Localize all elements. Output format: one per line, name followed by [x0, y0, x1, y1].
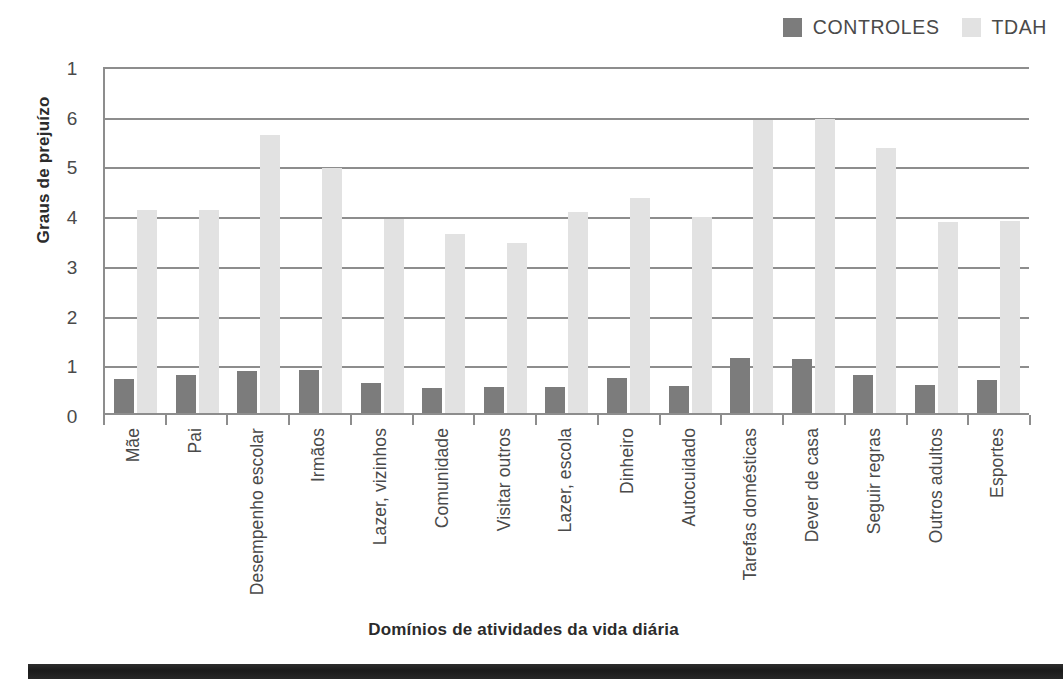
x-axis-category-label: Esportes — [989, 428, 1007, 498]
chart-figure: CONTROLES TDAH Graus de prejuízo 0123456… — [0, 0, 1063, 679]
bar-controles — [607, 378, 627, 413]
y-axis-tick-label: 0 — [67, 407, 78, 426]
bar-controles — [237, 371, 257, 413]
x-axis-tick-mark — [288, 415, 290, 425]
bar-controles — [792, 359, 812, 413]
chart-legend: CONTROLES TDAH — [0, 18, 1047, 38]
bar-controles — [669, 386, 689, 413]
x-axis-tick-marks — [103, 415, 1029, 425]
bar-group — [105, 69, 167, 413]
x-axis-tick-mark — [782, 415, 784, 425]
x-axis-category-label: Lazer, escola — [557, 428, 575, 532]
legend-label-controles: CONTROLES — [813, 18, 940, 38]
bar-controles — [545, 387, 565, 413]
x-axis-tick-mark — [535, 415, 537, 425]
bar-group — [659, 69, 721, 413]
x-axis-category: Pai — [165, 428, 227, 613]
bar-tdah — [753, 120, 773, 413]
x-axis-category-label: Comunidade — [434, 428, 452, 528]
bar-group — [475, 69, 537, 413]
bar-controles — [915, 385, 935, 413]
x-axis-category-label: Dinheiro — [619, 428, 637, 494]
y-axis-tick-label: 2 — [67, 308, 78, 327]
bar-tdah — [692, 217, 712, 413]
bar-group — [598, 69, 660, 413]
x-axis-category: Desempenho escolar — [226, 428, 288, 613]
bar-tdah — [876, 148, 896, 413]
x-axis-category-label: Irmãos — [310, 428, 328, 482]
bar-controles — [114, 379, 134, 413]
legend-label-tdah: TDAH — [992, 18, 1047, 38]
x-axis-category-label: Pai — [187, 428, 205, 454]
y-axis-tick-label: 1 — [67, 59, 78, 78]
x-axis-category: Comunidade — [412, 428, 474, 613]
x-axis-category: Seguir regras — [844, 428, 906, 613]
x-axis-tick-mark — [597, 415, 599, 425]
x-axis-tick-mark — [906, 415, 908, 425]
x-axis-tick-mark — [350, 415, 352, 425]
bar-group — [967, 69, 1029, 413]
y-axis-tick-label: 3 — [67, 258, 78, 277]
x-axis-tick-mark — [967, 415, 969, 425]
legend-item-controles: CONTROLES — [783, 18, 940, 38]
x-axis-tick-mark — [720, 415, 722, 425]
x-axis-tick-mark — [103, 415, 105, 425]
bar-controles — [730, 358, 750, 413]
bar-controles — [422, 388, 442, 413]
bar-tdah — [137, 210, 157, 413]
bar-controles — [299, 370, 319, 413]
bar-group — [413, 69, 475, 413]
bar-groups — [105, 69, 1029, 413]
y-axis-title: Graus de prejuízo — [34, 40, 54, 300]
bar-tdah — [568, 212, 588, 413]
legend-swatch-controles-icon — [783, 18, 802, 37]
bar-group — [228, 69, 290, 413]
bar-tdah — [938, 222, 958, 413]
x-axis-category-label: Desempenho escolar — [249, 428, 267, 595]
bar-tdah — [445, 234, 465, 413]
x-axis-category: Dever de casa — [782, 428, 844, 613]
bar-tdah — [384, 219, 404, 413]
x-axis-category: Tarefas domésticas — [720, 428, 782, 613]
x-axis-category-label: Outros adultos — [928, 428, 946, 543]
bar-tdah — [815, 119, 835, 413]
bar-tdah — [260, 135, 280, 413]
bar-controles — [484, 387, 504, 413]
x-axis-tick-mark — [412, 415, 414, 425]
x-axis-category: Outros adultos — [906, 428, 968, 613]
bar-tdah — [199, 210, 219, 413]
bar-tdah — [1000, 221, 1020, 413]
y-axis-tick-label: 5 — [67, 159, 78, 178]
x-axis-category: Dinheiro — [597, 428, 659, 613]
y-axis-tick-label: 6 — [67, 109, 78, 128]
bar-tdah — [322, 168, 342, 413]
bar-group — [844, 69, 906, 413]
x-axis-tick-mark — [165, 415, 167, 425]
x-axis-category-label: Mãe — [125, 428, 143, 462]
x-axis-tick-mark — [659, 415, 661, 425]
x-axis-category-labels: MãePaiDesempenho escolarIrmãosLazer, viz… — [103, 428, 1029, 613]
x-axis-category: Esportes — [967, 428, 1029, 613]
x-axis-category-label: Autocuidado — [681, 428, 699, 526]
bar-group — [167, 69, 229, 413]
plot-area: 01234561 — [103, 67, 1029, 415]
bar-group — [290, 69, 352, 413]
x-axis-category: Visitar outros — [473, 428, 535, 613]
x-axis-tick-mark — [1029, 415, 1031, 425]
bar-group — [906, 69, 968, 413]
y-axis-tick-label: 1 — [67, 357, 78, 376]
bar-controles — [176, 375, 196, 413]
x-axis-category-label: Tarefas domésticas — [742, 428, 760, 581]
x-axis-category-label: Lazer, vizinhos — [372, 428, 390, 545]
x-axis-tick-mark — [844, 415, 846, 425]
x-axis-category: Lazer, vizinhos — [350, 428, 412, 613]
x-axis-title: Domínios de atividades da vida diária — [0, 620, 1047, 640]
legend-item-tdah: TDAH — [962, 18, 1047, 38]
bar-group — [721, 69, 783, 413]
x-axis-category-label: Dever de casa — [804, 428, 822, 542]
x-axis-category: Mãe — [103, 428, 165, 613]
bar-controles — [853, 375, 873, 413]
scan-artifact-band — [28, 664, 1063, 679]
bar-tdah — [507, 243, 527, 413]
bar-group — [536, 69, 598, 413]
